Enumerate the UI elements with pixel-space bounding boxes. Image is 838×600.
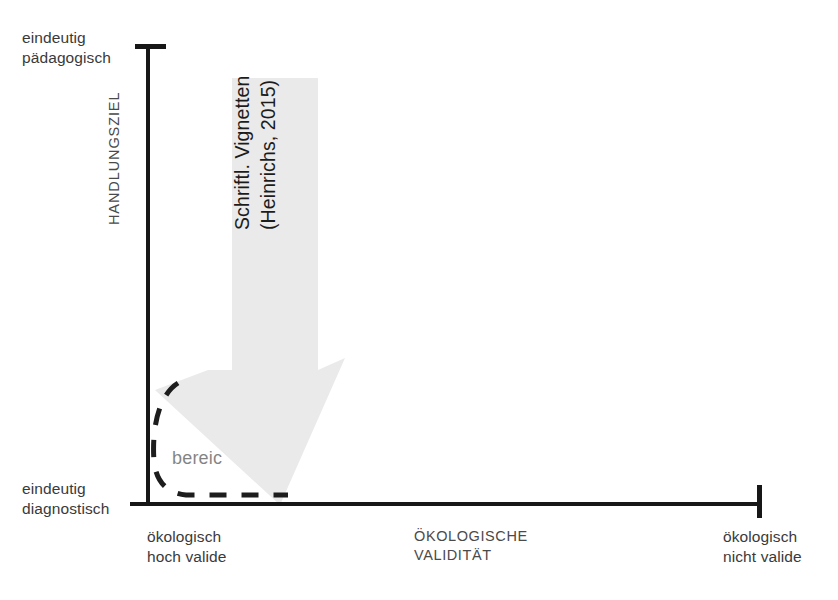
dashed-highlight-region <box>138 375 328 510</box>
y-axis-top-tick <box>135 44 166 49</box>
x-axis-title: ÖKOLOGISCHE VALIDITÄT <box>414 527 528 565</box>
arrow-label: Schriftl. Vignetten (Heinrichs, 2015) <box>230 20 281 230</box>
y-axis-bottom-tick <box>130 502 148 506</box>
y-axis-bottom-label: eindeutig diagnostisch <box>22 479 109 520</box>
y-axis-title: HANDLUNGSZIEL <box>106 75 122 225</box>
x-axis-right-label: ökologisch nicht valide <box>723 527 802 568</box>
x-axis-end-tick <box>757 485 762 518</box>
x-axis-line <box>146 502 762 506</box>
y-axis-line <box>146 46 150 506</box>
x-axis-left-label: ökologisch hoch valide <box>147 527 227 568</box>
figure-canvas: bereic Schriftl. Vignetten (Heinrichs, 2… <box>0 0 838 600</box>
dashed-region-label: bereic <box>172 448 222 469</box>
y-axis-top-label: eindeutig pädagogisch <box>22 28 111 69</box>
